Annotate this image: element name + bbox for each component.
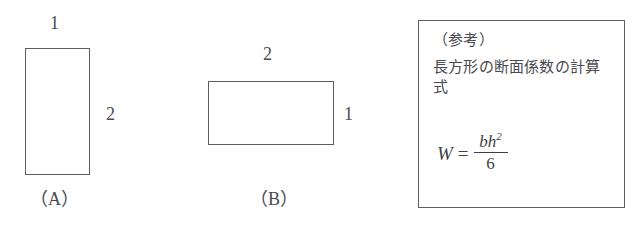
formula-numerator-base: bh xyxy=(479,132,496,151)
rectangle-a-shape xyxy=(25,48,90,175)
formula-lhs-variable: W xyxy=(437,144,453,163)
figure-b-caption: （B） xyxy=(250,190,298,208)
reference-note-content: （参考） 長方形の断面係数の計算式 xyxy=(433,31,616,97)
diagram-canvas: 1 2 （A） 2 1 （B） （参考） 長方形の断面係数の計算式 W = bh… xyxy=(0,0,643,230)
formula-numerator: bh2 xyxy=(475,133,506,152)
formula-numerator-exponent: 2 xyxy=(496,130,502,142)
rectangle-a-width-label: 1 xyxy=(50,14,59,32)
formula-fraction: bh2 6 xyxy=(474,133,508,174)
rectangle-b-shape xyxy=(208,81,334,145)
rectangle-b-height-label: 1 xyxy=(344,105,353,123)
figure-a-caption: （A） xyxy=(30,190,79,208)
reference-body-text: 長方形の断面係数の計算式 xyxy=(433,57,608,98)
formula-denominator: 6 xyxy=(486,153,495,174)
rectangle-a-height-label: 2 xyxy=(106,105,115,123)
reference-note-box: （参考） 長方形の断面係数の計算式 W = bh2 6 xyxy=(418,20,625,208)
rectangle-b-width-label: 2 xyxy=(263,45,272,63)
formula-equals-sign: = xyxy=(458,144,469,163)
section-modulus-formula: W = bh2 6 xyxy=(437,133,508,174)
reference-heading: （参考） xyxy=(433,31,616,50)
